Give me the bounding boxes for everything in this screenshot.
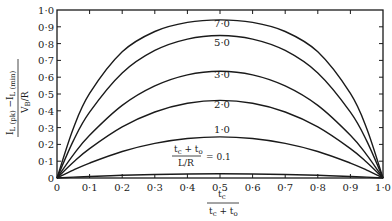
y-tick-label: 0·3 (38, 123, 54, 134)
y-tick-label: 0·2 (38, 139, 54, 150)
x-tick-label: 0·3 (147, 182, 163, 193)
parameter-annotation: tc + to L/R = 0.1 (172, 144, 231, 168)
x-tick-label: 0·6 (245, 182, 261, 193)
chart: 00·10·20·30·40·50·60·70·80·91·0 00·10·20… (0, 0, 392, 221)
svg-text:L/R: L/R (178, 158, 194, 168)
svg-text:IL (pk) −IL (min): IL (pk) −IL (min) (5, 70, 17, 135)
curve-2·0 (57, 100, 383, 178)
x-tick-label: 0 (54, 182, 60, 193)
x-tick-label: 0·4 (179, 182, 195, 193)
x-tick-label: 0·1 (82, 182, 98, 193)
x-tick-label: 0·9 (342, 182, 358, 193)
y-tick-label: 0·6 (38, 72, 54, 83)
y-tick-label: 0·8 (38, 39, 54, 50)
curve-label-2: 2·0 (214, 99, 230, 110)
x-tick-label: 0·2 (114, 182, 130, 193)
svg-text:= 0.1: = 0.1 (206, 152, 231, 162)
curve-label-5: 5·0 (214, 37, 230, 48)
y-tick-label: 0·7 (38, 55, 54, 66)
x-axis-label: tc tc + to (207, 189, 239, 218)
x-tick-label: 0·8 (310, 182, 326, 193)
y-tick-label: 0·5 (38, 89, 54, 100)
curve-label-1: 1·0 (214, 124, 230, 135)
svg-text:tc + to: tc + to (174, 144, 203, 156)
x-tick-labels: 00·10·20·30·40·50·60·70·80·91·0 (54, 182, 391, 193)
y-tick-label: 0·9 (38, 22, 54, 33)
svg-text:tc + to: tc + to (209, 206, 238, 218)
x-tick-label: 1·0 (375, 182, 391, 193)
y-tick-labels: 00·10·20·30·40·50·60·70·80·91·0 (38, 5, 54, 184)
curve-label-7: 7·0 (214, 18, 230, 29)
y-tick-label: 1·0 (38, 5, 54, 16)
y-tick-label: 0 (48, 173, 54, 184)
y-tick-label: 0·1 (38, 156, 54, 167)
y-tick-label: 0·4 (38, 106, 54, 117)
x-tick-label: 0·7 (277, 182, 293, 193)
svg-text:VB/R: VB/R (20, 91, 32, 114)
y-axis-label: IL (pk) −IL (min) VB/R (5, 59, 32, 137)
curve-label-3: 3·0 (214, 69, 230, 80)
